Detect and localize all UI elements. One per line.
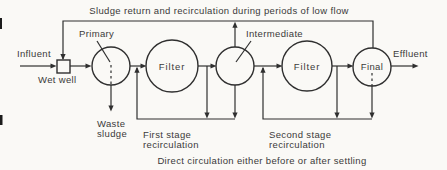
primary-label: Primary [79,28,114,39]
first-filter-label: Filter [159,61,186,72]
intermediate-label: Intermediate [246,28,303,39]
influent-arrowhead-icon [51,63,57,68]
sludge-return-arrowhead-down-icon [60,54,65,60]
wet-well-box [57,60,70,73]
direct-circulation-caption: Direct circulation either before or afte… [157,155,366,166]
waste-sludge-label-line2: sludge [97,128,127,139]
influent-label: Influent [17,48,51,59]
effluent-arrowhead-icon [413,63,419,68]
final-bottom-arrowhead-down-icon [369,113,374,119]
intermediate-top-arrowhead-up-icon [232,22,237,28]
second-stage-return-arrowhead-up-icon [260,67,265,73]
wet-well-label: Wet well [38,74,77,85]
waste-sludge-arrowhead-down-icon [108,106,113,112]
first-stage-takeoff-arrowhead-down-icon [204,113,209,119]
intermediate-clarifier-circle [216,47,254,85]
second-stage-takeoff-arrowhead-down-icon [334,113,339,119]
second-stage-label-line2: recirculation [269,139,325,150]
to-primary-arrowhead-icon [86,63,92,68]
intermediate-bottom-arrowhead-down-icon [232,113,237,119]
effluent-label: Effluent [393,48,428,59]
scan-artifact [0,18,2,29]
first-stage-label-line2: recirculation [143,139,199,150]
second-filter-label: Filter [294,61,321,72]
scan-artifact [0,115,3,125]
first-stage-return-arrowhead-up-icon [134,67,139,73]
trickling-filter-flow-diagram: Sludge return and recirculation during p… [0,0,447,170]
scanned-figure: Sludge return and recirculation during p… [0,0,447,170]
final-label: Final [361,61,383,72]
sludge-return-caption: Sludge return and recirculation during p… [89,5,349,16]
